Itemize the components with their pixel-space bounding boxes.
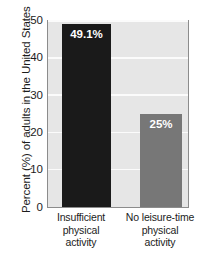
x-label-1-line-3: activity: [41, 236, 121, 249]
y-axis-tick-labels: 50 40 30 20 10 0: [22, 0, 43, 262]
bar-no-leisure-time-physical-activity[interactable]: 25%: [140, 114, 182, 207]
bar-chart: Percent (%) of adults in the United Stat…: [0, 0, 205, 262]
plot-area: 49.1% 25%: [47, 20, 189, 208]
x-label-no-leisure-time-physical-activity: No leisure-time physical activity: [118, 211, 202, 249]
y-tick-label-30: 30: [22, 90, 43, 101]
y-tick-label-10: 10: [22, 164, 43, 175]
x-label-2-line-1: No leisure-time: [118, 211, 202, 224]
y-tick-label-50: 50: [22, 15, 43, 26]
bar-value-label-2: 25%: [140, 118, 182, 130]
x-label-2-line-2: physical: [118, 224, 202, 237]
y-tick-label-0: 0: [22, 202, 43, 213]
x-label-1-line-2: physical: [41, 224, 121, 237]
bar-value-label-1: 49.1%: [62, 28, 111, 40]
x-label-insufficient-physical-activity: Insufficient physical activity: [41, 211, 121, 249]
y-tick-label-20: 20: [22, 127, 43, 138]
x-axis-category-labels: Insufficient physical activity No leisur…: [47, 211, 189, 259]
x-label-1-line-1: Insufficient: [41, 211, 121, 224]
x-label-2-line-3: activity: [118, 236, 202, 249]
bar-insufficient-physical-activity[interactable]: 49.1%: [62, 24, 111, 207]
bars-layer: 49.1% 25%: [48, 20, 188, 207]
y-tick-label-40: 40: [22, 52, 43, 63]
